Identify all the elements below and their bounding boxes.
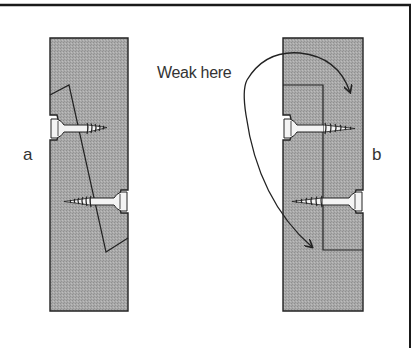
weak-here-callout: Weak here: [157, 64, 231, 82]
panel-label-b: b: [372, 145, 381, 165]
joint-diagram: [0, 0, 412, 348]
panel-b: [283, 38, 363, 311]
panel-a: [50, 38, 128, 311]
panel-label-a: a: [23, 145, 32, 165]
